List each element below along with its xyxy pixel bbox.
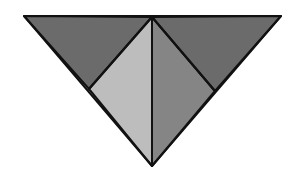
- triangle-diagram: [0, 0, 301, 180]
